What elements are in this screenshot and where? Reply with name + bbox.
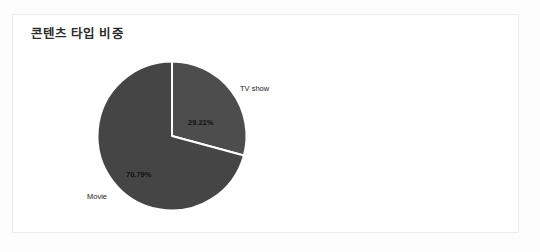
pie-slice-value-movie: 70.79%	[126, 171, 151, 179]
pie-chart-svg	[13, 15, 520, 234]
pie-slice-label-movie: Movie	[87, 193, 107, 201]
chart-card: 콘텐츠 타입 비중 TV show 29.21% Movie 70.79%	[12, 14, 519, 233]
pie-slice-label-tv-show: TV show	[240, 85, 269, 93]
pie-slice-group	[98, 61, 247, 210]
pie-slice-value-tv-show: 29.21%	[188, 119, 213, 127]
page-background: 콘텐츠 타입 비중 TV show 29.21% Movie 70.79%	[0, 0, 540, 252]
pie-chart-plot-area: TV show 29.21% Movie 70.79%	[13, 15, 520, 234]
